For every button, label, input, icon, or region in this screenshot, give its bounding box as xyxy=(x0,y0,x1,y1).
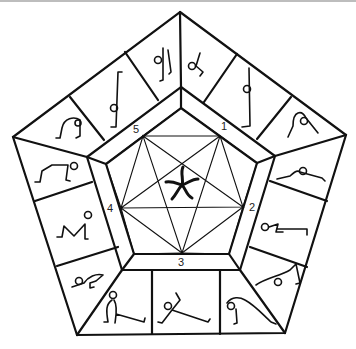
yoga-pose-bridge-icon xyxy=(256,264,300,286)
yoga-pose-arch-icon xyxy=(56,118,81,138)
pentagon-diagram: 1 2 3 4 5 xyxy=(0,0,356,349)
yoga-pose-split-icon xyxy=(104,292,145,324)
yoga-pose-seated-curl-icon xyxy=(189,53,204,76)
yoga-pose-standing-bar-icon xyxy=(111,72,123,127)
yoga-pose-downdog-icon xyxy=(35,163,78,183)
yoga-pose-lying-icon xyxy=(277,168,325,182)
yoga-pose-curled-icon xyxy=(155,48,172,81)
yoga-pose-crouch-icon xyxy=(72,274,103,288)
vertex-label-1: 1 xyxy=(221,120,227,132)
yoga-pose-forward-bend-icon xyxy=(288,113,318,137)
vertex-label-3: 3 xyxy=(178,256,184,268)
corner-connectors xyxy=(13,12,346,335)
vertex-labels: 1 2 3 4 5 xyxy=(107,120,255,268)
outer-pentagon xyxy=(13,12,346,335)
vertex-label-4: 4 xyxy=(107,202,113,214)
yoga-pose-table-icon xyxy=(57,212,92,240)
vertex-label-5: 5 xyxy=(133,123,139,135)
yoga-pose-standing-tall-icon xyxy=(242,68,251,127)
yoga-pose-lunge-icon xyxy=(158,293,210,323)
vertex-label-2: 2 xyxy=(249,201,255,213)
yoga-pose-plank-icon xyxy=(262,224,308,236)
